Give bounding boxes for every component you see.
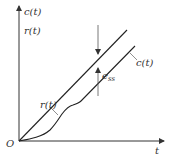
origin-label: O <box>6 138 14 149</box>
input-curve-label: r(t) <box>40 99 57 110</box>
output-curve <box>19 46 135 141</box>
output-curve-label: c(t) <box>136 57 154 68</box>
y-axis-label-r: r(t) <box>24 25 41 36</box>
input-ramp-line <box>19 30 127 141</box>
x-axis-label: t <box>155 145 160 156</box>
y-axis-label-c: c(t) <box>24 6 42 17</box>
ramp-response-diagram: c(t) r(t) t O r(t) c(t) ess <box>0 0 172 157</box>
